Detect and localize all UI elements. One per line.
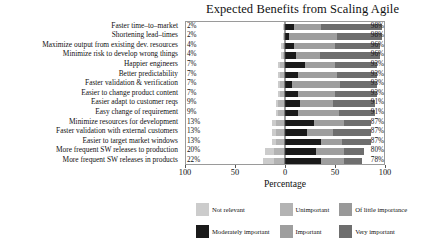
positive-value-label: 91% bbox=[371, 98, 384, 107]
bar-segment bbox=[285, 120, 314, 127]
bar-segment bbox=[296, 52, 320, 59]
legend-swatch-icon bbox=[339, 203, 352, 216]
category-label: Easy change of requirement bbox=[95, 108, 178, 117]
legend-item[interactable]: Not relevant bbox=[196, 203, 274, 216]
bar-segment bbox=[298, 110, 340, 117]
negative-value-label: 7% bbox=[187, 89, 197, 98]
negative-value-label: 4% bbox=[187, 50, 197, 59]
legend-label: Very important bbox=[355, 228, 395, 235]
x-axis-tick-label: 50 bbox=[231, 168, 239, 177]
bar-segment bbox=[314, 120, 345, 127]
category-label: Shortening lead–times bbox=[112, 31, 178, 40]
positive-value-label: 93% bbox=[371, 79, 384, 88]
category-label: More frequent SW releases to production bbox=[56, 146, 178, 155]
bar-segment bbox=[285, 62, 305, 69]
positive-value-label: 91% bbox=[371, 108, 384, 117]
category-label: Better predictability bbox=[119, 70, 178, 79]
negative-value-label: 2% bbox=[187, 22, 197, 31]
category-label: Happier engineers bbox=[124, 60, 178, 69]
category-label: Easier adapt to customer reqs bbox=[91, 98, 178, 107]
legend-label: Of little importance bbox=[355, 206, 407, 213]
bar-segment bbox=[298, 91, 336, 98]
bar-segment bbox=[305, 62, 336, 69]
category-label: Maximize output from existing dev. resou… bbox=[42, 41, 178, 50]
positive-value-label: 80% bbox=[371, 146, 384, 155]
negative-value-label: 7% bbox=[187, 60, 197, 69]
positive-value-label: 98% bbox=[371, 22, 384, 31]
positive-value-labels: 98%98%96%96%93%93%93%93%91%91%87%87%87%8… bbox=[362, 21, 384, 165]
positive-value-label: 87% bbox=[371, 137, 384, 146]
bar-segment bbox=[321, 158, 345, 165]
legend-item[interactable]: Unimportant bbox=[280, 203, 334, 216]
category-label: More frequent SW releases in products bbox=[63, 156, 178, 165]
bar-segment bbox=[274, 158, 285, 165]
negative-value-labels: 2%2%4%4%7%7%7%7%9%9%13%13%13%20%22% bbox=[187, 21, 211, 165]
x-axis-tick-label: 0 bbox=[283, 168, 287, 177]
x-axis-tick-label: 100 bbox=[379, 168, 392, 177]
bar-segment bbox=[274, 148, 285, 155]
bar-segment bbox=[265, 148, 274, 155]
bar-segment bbox=[285, 24, 294, 31]
bar-segment bbox=[300, 100, 333, 107]
category-label: Faster validation & verification bbox=[85, 79, 178, 88]
negative-value-label: 13% bbox=[187, 137, 200, 146]
bar-segment bbox=[285, 129, 307, 136]
x-axis: 10050050100 bbox=[185, 165, 385, 179]
bar-segment bbox=[294, 24, 321, 31]
legend-swatch-icon bbox=[196, 203, 209, 216]
negative-value-label: 9% bbox=[187, 98, 197, 107]
category-axis-labels: Faster time–to–marketShortening lead–tim… bbox=[0, 21, 180, 165]
plot-area bbox=[185, 21, 385, 165]
x-axis-title: Percentage bbox=[185, 178, 385, 189]
legend-label: Moderately important bbox=[212, 228, 270, 235]
legend-item[interactable]: Important bbox=[280, 225, 334, 238]
category-label: Minimize risk to develop wrong things bbox=[63, 50, 178, 59]
bar-segment bbox=[285, 139, 321, 146]
bar-segment bbox=[316, 148, 345, 155]
positive-value-label: 78% bbox=[371, 156, 384, 165]
legend-item[interactable]: Of little importance bbox=[339, 203, 411, 216]
negative-value-label: 13% bbox=[187, 118, 200, 127]
bar-segment bbox=[285, 158, 321, 165]
negative-value-label: 13% bbox=[187, 127, 200, 136]
x-axis-tick-label: 100 bbox=[179, 168, 192, 177]
bar-segment bbox=[307, 129, 334, 136]
x-axis-tick-label: 50 bbox=[331, 168, 339, 177]
bar-segment bbox=[285, 110, 298, 117]
bar-segment bbox=[344, 158, 362, 165]
chart-title: Expected Benefits from Scaling Agile bbox=[180, 2, 425, 17]
legend-swatch-icon bbox=[196, 225, 209, 238]
category-label: Easier to target market windows bbox=[82, 137, 178, 146]
positive-value-label: 96% bbox=[371, 41, 384, 50]
legend-label: Not relevant bbox=[212, 206, 245, 213]
bar-segment bbox=[321, 139, 343, 146]
bar-segment bbox=[285, 52, 296, 59]
negative-value-label: 20% bbox=[187, 146, 200, 155]
legend-swatch-icon bbox=[280, 225, 293, 238]
category-label: Minimize resources for development bbox=[69, 118, 178, 127]
legend-item[interactable]: Very important bbox=[339, 225, 411, 238]
negative-value-label: 22% bbox=[187, 156, 200, 165]
negative-value-label: 9% bbox=[187, 108, 197, 117]
legend-label: Unimportant bbox=[296, 206, 330, 213]
positive-value-label: 87% bbox=[371, 118, 384, 127]
bar-segment bbox=[285, 148, 316, 155]
bar-segment bbox=[285, 81, 292, 88]
bar-segment bbox=[292, 81, 341, 88]
bar-segment bbox=[285, 100, 300, 107]
positive-value-label: 93% bbox=[371, 89, 384, 98]
negative-value-label: 4% bbox=[187, 41, 197, 50]
negative-value-label: 7% bbox=[187, 79, 197, 88]
bar-segment bbox=[298, 72, 338, 79]
chart-legend: Not relevantUnimportantOf little importa… bbox=[196, 203, 411, 238]
category-label: Easier to change product content bbox=[81, 89, 178, 98]
positive-value-label: 98% bbox=[371, 31, 384, 40]
negative-value-label: 2% bbox=[187, 31, 197, 40]
category-label: Faster validation with external customer… bbox=[56, 127, 178, 136]
chart-root: Expected Benefits from Scaling Agile Fas… bbox=[0, 0, 425, 247]
bar-segment bbox=[285, 43, 294, 50]
bar-segment bbox=[263, 158, 274, 165]
legend-item[interactable]: Moderately important bbox=[196, 225, 274, 238]
bar-segment bbox=[285, 72, 298, 79]
legend-swatch-icon bbox=[339, 225, 352, 238]
